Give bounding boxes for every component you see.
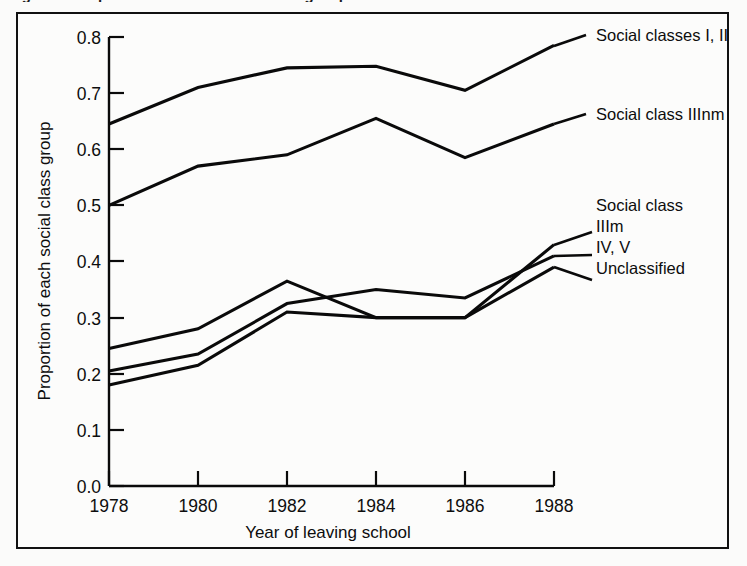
leader-line-social-class-iiinm xyxy=(554,114,586,124)
y-tick-marks xyxy=(109,37,124,486)
y-tick-label: 0.1 xyxy=(77,421,101,441)
x-tick-label: 1986 xyxy=(446,496,485,516)
leader-line-iv-v xyxy=(554,255,592,256)
annotation-iiim: IIIm xyxy=(596,217,624,235)
y-tick-label: 0.4 xyxy=(77,252,102,272)
x-tick-marks xyxy=(109,471,554,486)
x-tick-label: 1978 xyxy=(90,496,129,516)
y-tick-label: 0.6 xyxy=(77,140,101,160)
annotation-iv-v: IV, V xyxy=(596,238,630,256)
y-tick-label: 0.5 xyxy=(77,196,101,216)
leader-line-unclassified xyxy=(554,267,592,280)
x-tick-label: 1984 xyxy=(357,496,396,516)
figure-title-remnant: Figure 3 Proportion of each social class… xyxy=(8,0,428,2)
x-axis-title: Year of leaving school xyxy=(245,523,411,542)
y-tick-label: 0.2 xyxy=(77,365,101,385)
y-tick-label: 0.7 xyxy=(77,84,101,104)
annotation-social-class-heading: Social class xyxy=(596,196,683,214)
y-tick-label: 0.3 xyxy=(77,309,101,329)
x-tick-labels: 1978 1980 1982 1984 1986 1988 xyxy=(90,496,574,516)
y-axis-title: Proportion of each social class group xyxy=(35,122,54,401)
series-line-social-classes-i-ii xyxy=(109,45,554,124)
annotation-leader-lines xyxy=(554,35,592,280)
line-chart: 0.8 0.7 0.6 0.5 0.4 0.3 0.2 0.1 0.0 1978… xyxy=(18,14,727,547)
annotation-unclassified: Unclassified xyxy=(596,259,685,277)
series-line-social-class-iiinm xyxy=(109,118,554,205)
y-tick-label: 0.0 xyxy=(77,477,102,497)
leader-line-social-classes-i-ii xyxy=(554,35,586,46)
figure-frame: 0.8 0.7 0.6 0.5 0.4 0.3 0.2 0.1 0.0 1978… xyxy=(16,12,729,549)
annotation-social-class-iiinm: Social class IIInm xyxy=(596,105,724,123)
series-line-unclassified xyxy=(109,267,554,385)
y-tick-labels: 0.8 0.7 0.6 0.5 0.4 0.3 0.2 0.1 0.0 xyxy=(77,28,102,497)
annotation-social-classes-i-ii: Social classes I, II xyxy=(596,26,727,44)
x-tick-label: 1980 xyxy=(179,496,218,516)
leader-line-iiim xyxy=(554,232,592,245)
x-tick-label: 1982 xyxy=(268,496,307,516)
x-tick-label: 1988 xyxy=(535,496,574,516)
y-tick-label: 0.8 xyxy=(77,28,101,48)
